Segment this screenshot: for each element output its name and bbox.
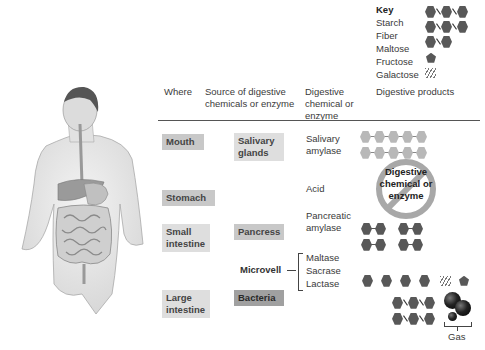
header-products: Digestive products [376,86,454,98]
source-salivary-glands: Salivary glands [234,133,284,161]
where-large-intestine: Large intestine [162,290,210,318]
header-where: Where [164,86,192,98]
chemical-maltase: Maltase [306,252,339,264]
key-label-maltose: Maltose [376,43,409,55]
header-chemical: Digestive chemical or enzyme [305,86,360,122]
gas-bracket [444,322,472,327]
where-mouth: Mouth [162,134,204,150]
source-microvell: Microvell [240,264,281,276]
key-title: Key [376,4,393,16]
fiber-chain-icon [425,20,468,32]
gas-bubble-large-2 [455,300,471,316]
product-mouth-chain-1 [360,130,427,142]
source-pancress: Pancress [234,224,284,240]
product-fiber-chain-1 [392,296,435,308]
product-mouth-chain-2 [360,146,427,158]
microvell-connector [287,270,296,271]
chemical-pancreatic-amylase: Pancreatic amylase [306,210,356,234]
where-stomach: Stomach [162,190,215,206]
product-maltose-pairs-1 [361,222,423,234]
header-source: Source of digestive chemicals or enzyme [205,86,295,110]
key-label-fructose: Fructose [376,56,413,68]
key-label-galactose: Galactose [376,69,419,81]
gas-label: Gas [448,331,465,343]
gas-bubble-small [448,312,457,321]
chemical-sacrase: Sacrase [306,265,341,277]
maltose-pair-icon [425,35,452,47]
chemical-lactase: Lactase [306,278,339,290]
chemical-acid: Acid [306,183,324,195]
fructose-pentagon-icon [426,51,436,63]
product-fiber-chain-2 [392,312,435,324]
stomach-note: Digestive chemical or enzyme [378,166,434,202]
header-divider [158,120,480,121]
starch-chain-icon [425,5,468,17]
product-maltose-pairs-2 [361,238,423,250]
galactose-hatch-icon [425,66,436,78]
where-small-intestine: Small intestine [162,224,210,252]
microvell-bracket [298,253,303,291]
human-body-digestive-illustration [8,84,148,324]
key-label-fiber: Fiber [376,30,398,42]
product-monosaccharides [362,274,469,286]
chemical-salivary-amylase: Salivary amylase [306,133,346,157]
source-bacteria: Bacteria [234,290,284,306]
key-label-starch: Starch [376,17,403,29]
